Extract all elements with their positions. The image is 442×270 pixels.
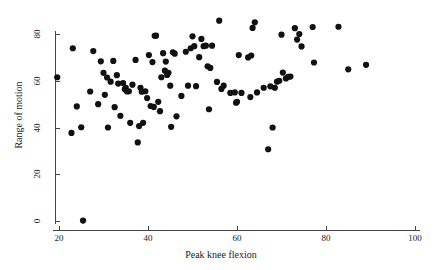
data-point	[153, 33, 159, 39]
x-axis-title: Peak knee flexion	[0, 249, 442, 260]
plot-canvas	[0, 0, 442, 270]
data-point	[126, 88, 132, 94]
plot-area: 20406080100 020406080	[0, 0, 442, 270]
y-tick-label: 20	[33, 170, 42, 179]
data-point	[168, 124, 174, 130]
y-axis-title-wrap: Range of motion	[10, 0, 26, 230]
tick-marks-group	[56, 35, 416, 231]
data-point	[292, 25, 298, 31]
data-point	[132, 57, 138, 63]
data-point	[112, 104, 118, 110]
data-point	[160, 50, 166, 56]
data-point	[345, 66, 351, 72]
data-point	[90, 48, 96, 54]
data-point	[287, 73, 293, 79]
data-point	[110, 58, 116, 64]
data-point	[280, 69, 286, 75]
data-point	[294, 37, 300, 43]
data-point	[248, 52, 254, 58]
data-point	[127, 120, 133, 126]
y-tick-label: 60	[33, 76, 42, 85]
data-point	[173, 113, 179, 119]
data-point	[108, 79, 114, 85]
data-point	[238, 90, 244, 96]
data-point	[196, 54, 202, 60]
data-point	[191, 43, 197, 49]
axes-group	[53, 31, 420, 231]
data-point	[296, 31, 302, 37]
data-point	[311, 59, 317, 65]
data-point	[278, 32, 284, 38]
data-point	[335, 24, 341, 30]
data-point	[221, 83, 227, 89]
data-point	[102, 92, 108, 98]
data-point	[155, 99, 161, 105]
data-point	[189, 33, 195, 39]
x-tick-label: 100	[408, 234, 422, 243]
data-point	[298, 43, 304, 49]
data-point	[87, 88, 93, 94]
data-point	[157, 108, 163, 114]
data-point	[151, 104, 157, 110]
data-point	[142, 88, 148, 94]
y-tick-label: 0	[33, 219, 42, 224]
data-point	[149, 59, 155, 65]
data-point	[249, 25, 255, 31]
data-point	[193, 83, 199, 89]
data-point	[252, 19, 258, 25]
data-point	[78, 124, 84, 130]
data-point	[310, 24, 316, 30]
data-point	[129, 82, 135, 88]
data-point	[236, 52, 242, 58]
data-point	[207, 65, 213, 71]
data-point	[206, 106, 212, 112]
data-point	[135, 139, 141, 145]
data-point	[146, 52, 152, 58]
data-point	[185, 83, 191, 89]
data-point	[254, 89, 260, 95]
data-point	[167, 83, 173, 89]
scatter-plot-figure: 20406080100 020406080 Peak knee flexion …	[0, 0, 442, 270]
data-point	[214, 79, 220, 85]
data-point	[158, 74, 164, 80]
data-point	[265, 146, 271, 152]
data-point	[163, 58, 169, 64]
y-axis-title: Range of motion	[13, 81, 24, 148]
data-point	[140, 120, 146, 126]
data-point	[272, 85, 278, 91]
x-tick-label: 40	[144, 234, 153, 243]
data-point	[209, 43, 215, 49]
y-tick-label: 80	[33, 30, 42, 39]
data-point	[80, 217, 86, 223]
data-point	[144, 95, 150, 101]
x-tick-label: 60	[233, 234, 242, 243]
data-point	[68, 130, 74, 136]
data-point	[95, 101, 101, 107]
data-point	[232, 89, 238, 95]
data-point	[165, 70, 171, 76]
data-point	[270, 124, 276, 130]
data-point	[216, 18, 222, 24]
data-point	[74, 103, 80, 109]
data-point	[203, 43, 209, 49]
data-point	[54, 74, 60, 80]
data-point	[70, 45, 76, 51]
data-point	[172, 51, 178, 57]
data-point	[98, 58, 104, 64]
x-tick-label: 80	[322, 234, 331, 243]
data-point	[276, 78, 282, 84]
data-point	[234, 99, 240, 105]
data-points-group	[54, 18, 369, 224]
data-point	[198, 36, 204, 42]
data-point	[117, 113, 123, 119]
x-tick-label: 20	[55, 234, 64, 243]
data-point	[261, 85, 267, 91]
data-point	[178, 93, 184, 99]
data-point	[105, 124, 111, 130]
data-point	[114, 72, 120, 78]
data-point	[363, 62, 369, 68]
data-point	[247, 94, 253, 100]
y-tick-label: 40	[33, 123, 42, 132]
